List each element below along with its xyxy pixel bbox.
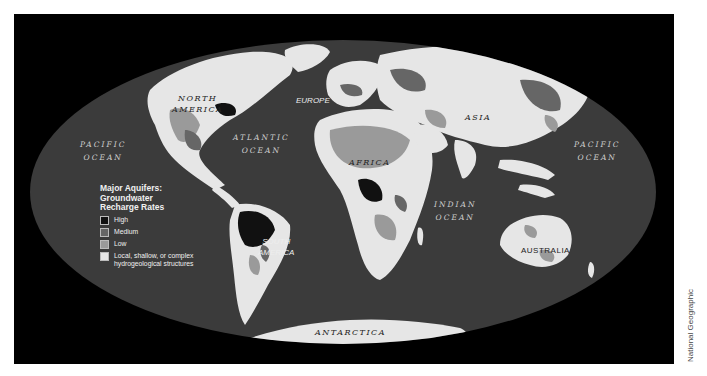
credit-national-geographic: National Geographic [686, 289, 695, 362]
swatch-low [100, 240, 109, 249]
label-africa: AFRICA [349, 157, 390, 168]
label-atlantic-ocean: ATLANTIC OCEAN [233, 131, 290, 157]
label-south-america: SOUTH AMERICA [258, 236, 294, 258]
swatch-high [100, 216, 109, 225]
swatch-medium [100, 228, 109, 237]
label-indian-ocean: INDIAN OCEAN [434, 198, 476, 224]
legend-item-medium: Medium [100, 228, 193, 237]
label-antarctica: ANTARCTICA [315, 327, 386, 338]
label-pacific-ocean-west: PACIFIC OCEAN [80, 138, 126, 164]
label-north-america: NORTH AMERICA [172, 93, 223, 115]
label-australia: AUSTRALIA [521, 245, 570, 256]
swatch-local [100, 252, 109, 261]
label-pacific-ocean-east: PACIFIC OCEAN [574, 138, 620, 164]
legend-item-high: High [100, 216, 193, 225]
legend-item-low: Low [100, 240, 193, 249]
label-europe: EUROPE [296, 95, 330, 106]
label-asia: ASIA [465, 112, 491, 123]
legend: Major Aquifers: Groundwater Recharge Rat… [100, 184, 193, 268]
legend-item-local: Local, shallow, or complex hydrogeologic… [100, 252, 193, 268]
legend-title-line3: Recharge Rates [100, 203, 193, 213]
